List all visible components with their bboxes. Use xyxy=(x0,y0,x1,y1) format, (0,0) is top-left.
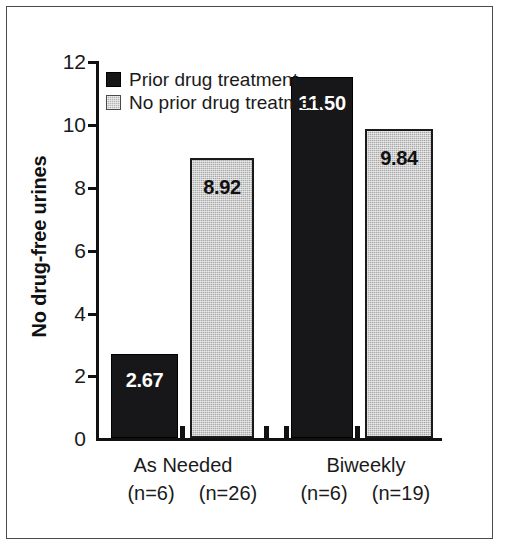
y-tick-label-12: 12 xyxy=(40,51,86,72)
bar-as-needed-no-prior[interactable]: 8.92 xyxy=(190,158,254,438)
bar-value-label: 2.67 xyxy=(112,369,177,392)
bar-value-label: 9.84 xyxy=(367,147,431,170)
x-axis-labels: As Needed Biweekly (n=6) (n=26) (n=6) (n… xyxy=(96,446,442,516)
legend-item-no-prior-drug-treatment[interactable]: No prior drug treatment xyxy=(106,91,325,114)
bar-biweekly-prior[interactable]: 11.50 xyxy=(291,77,353,438)
x-group-n-biweekly-no-prior: (n=19) xyxy=(353,482,449,505)
figure-root: No drug-free urines 12 10 8 6 4 2 0 2.67… xyxy=(0,0,505,551)
y-tick-label-4: 4 xyxy=(40,303,86,324)
x-axis-line xyxy=(96,438,442,441)
y-tick-label-2: 2 xyxy=(40,365,86,386)
y-tick-label-6: 6 xyxy=(40,240,86,261)
bar-biweekly-no-prior[interactable]: 9.84 xyxy=(365,129,433,438)
x-tick-mark-1 xyxy=(180,426,185,438)
legend-label: Prior drug treatment xyxy=(129,70,298,89)
x-tick-mark-4 xyxy=(355,426,360,438)
bar-as-needed-prior[interactable]: 2.67 xyxy=(111,354,178,438)
y-axis-tick-labels: 12 10 8 6 4 2 0 xyxy=(28,0,86,551)
y-tick-label-0: 0 xyxy=(40,428,86,449)
x-tick-mark-3 xyxy=(284,426,289,438)
legend: Prior drug treatment No prior drug treat… xyxy=(106,68,325,114)
x-group-name-biweekly: Biweekly xyxy=(301,454,431,477)
x-group-n-as-needed-no-prior: (n=26) xyxy=(180,482,276,505)
legend-swatch-dark-icon xyxy=(106,72,121,87)
x-group-name-as-needed: As Needed xyxy=(118,454,248,477)
legend-swatch-gray-icon xyxy=(106,95,121,110)
legend-item-prior-drug-treatment[interactable]: Prior drug treatment xyxy=(106,68,325,91)
y-tick-label-10: 10 xyxy=(40,114,86,135)
legend-label: No prior drug treatment xyxy=(129,93,325,112)
bar-value-label: 8.92 xyxy=(192,176,252,199)
x-tick-mark-2 xyxy=(264,426,269,438)
y-tick-label-8: 8 xyxy=(40,177,86,198)
plot-area: 2.67 8.92 11.50 9.84 xyxy=(96,62,441,438)
